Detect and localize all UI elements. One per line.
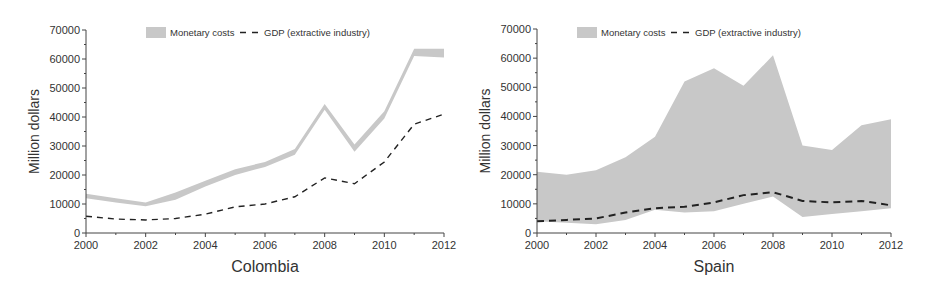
x-tick-label: 2002 bbox=[584, 239, 608, 251]
x-tick-label: 2012 bbox=[879, 239, 903, 251]
y-axis-title: Million dollars bbox=[477, 89, 493, 174]
x-tick-label: 2012 bbox=[432, 239, 456, 251]
y-tick-label: 20000 bbox=[49, 169, 80, 181]
legend-label-gdp: GDP (extractive industry) bbox=[695, 27, 801, 38]
x-tick-label: 2000 bbox=[525, 239, 549, 251]
legend: Monetary costsGDP (extractive industry) bbox=[577, 27, 801, 38]
spain-plot: 0100002000030000400005000060000700002000… bbox=[465, 0, 931, 290]
axes: 0100002000030000400005000060000700002000… bbox=[49, 24, 456, 251]
y-tick-label: 10000 bbox=[500, 198, 531, 210]
chart-colombia: 0100002000030000400005000060000700002000… bbox=[0, 0, 465, 290]
y-tick-label: 10000 bbox=[49, 198, 80, 210]
y-tick-label: 0 bbox=[74, 227, 80, 239]
y-tick-label: 60000 bbox=[49, 53, 80, 65]
x-tick-label: 2010 bbox=[372, 239, 396, 251]
legend-label-monetary-costs: Monetary costs bbox=[601, 27, 666, 38]
x-tick-label: 2006 bbox=[253, 239, 277, 251]
colombia-plot: 0100002000030000400005000060000700002000… bbox=[0, 0, 465, 290]
x-tick-label: 2006 bbox=[702, 239, 726, 251]
y-tick-label: 70000 bbox=[500, 23, 531, 35]
y-tick-label: 30000 bbox=[49, 140, 80, 152]
monetary-costs-band bbox=[537, 55, 891, 224]
y-tick-label: 60000 bbox=[500, 52, 531, 64]
x-tick-label: 2004 bbox=[193, 239, 217, 251]
x-tick-label: 2002 bbox=[133, 239, 157, 251]
y-tick-label: 0 bbox=[525, 227, 531, 239]
x-tick-label: 2010 bbox=[820, 239, 844, 251]
legend: Monetary costsGDP (extractive industry) bbox=[146, 27, 370, 38]
y-tick-label: 50000 bbox=[500, 81, 531, 93]
chart-title: Colombia bbox=[231, 258, 299, 275]
x-tick-label: 2000 bbox=[74, 239, 98, 251]
y-tick-label: 70000 bbox=[49, 24, 80, 36]
x-tick-label: 2004 bbox=[643, 239, 667, 251]
y-tick-label: 30000 bbox=[500, 140, 531, 152]
legend-swatch-band bbox=[146, 27, 166, 38]
chart-title: Spain bbox=[694, 258, 735, 275]
legend-label-gdp: GDP (extractive industry) bbox=[264, 27, 370, 38]
chart-spain: 0100002000030000400005000060000700002000… bbox=[465, 0, 931, 290]
legend-swatch-band bbox=[577, 27, 597, 38]
x-tick-label: 2008 bbox=[312, 239, 336, 251]
legend-label-monetary-costs: Monetary costs bbox=[170, 27, 235, 38]
y-tick-label: 50000 bbox=[49, 82, 80, 94]
x-tick-label: 2008 bbox=[761, 239, 785, 251]
monetary-costs-band bbox=[86, 49, 444, 206]
y-tick-label: 20000 bbox=[500, 169, 531, 181]
y-tick-label: 40000 bbox=[500, 110, 531, 122]
y-axis-title: Million dollars bbox=[26, 89, 42, 174]
y-tick-label: 40000 bbox=[49, 111, 80, 123]
